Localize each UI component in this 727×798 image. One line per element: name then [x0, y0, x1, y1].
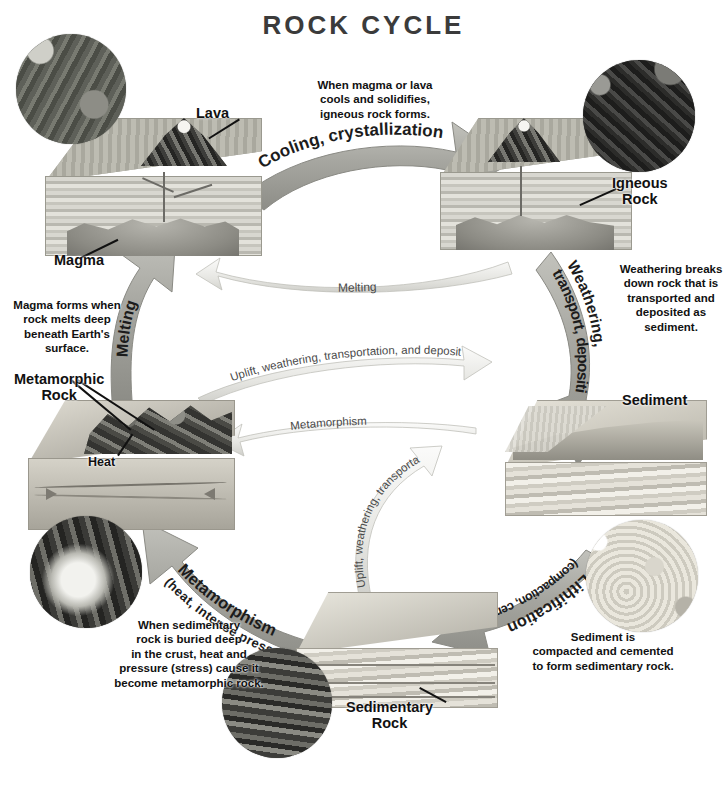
arrow-label-metamorphism-minor: Metamorphism — [290, 415, 367, 432]
label-metamorphic-line2: Rock — [14, 388, 104, 404]
note-lithification-line3: to form sedimentary rock. — [508, 659, 698, 673]
note-lithification-line2: compacted and cemented — [508, 644, 698, 658]
label-metamorphic-line1: Metamorphic — [14, 372, 104, 388]
note-weathering-line5: sediment. — [618, 320, 724, 334]
label-heat: Heat — [88, 455, 115, 469]
note-metamorphism-line4: pressure (stress) cause it — [96, 661, 282, 675]
label-igneous-rock: Igneous Rock — [612, 176, 668, 208]
svg-text:Melting: Melting — [338, 280, 377, 295]
rock-cycle-diagram: ROCK CYCLE — [0, 0, 727, 798]
label-sedimentary-line2: Rock — [346, 716, 433, 732]
label-sediment: Sediment — [622, 392, 687, 408]
label-metamorphic-rock: Metamorphic Rock — [14, 372, 104, 403]
label-sedimentary-rock: Sedimentary Rock — [346, 700, 433, 732]
forest-outcrop-texture — [16, 34, 126, 144]
arrow-melting-minor: Melting — [196, 258, 512, 295]
lava-flow-texture — [30, 516, 142, 628]
label-igneous-line1: Igneous — [612, 176, 668, 192]
note-cooling-line3: igneous rock forms. — [295, 107, 455, 121]
note-cooling-line2: cools and solidifies, — [295, 92, 455, 106]
note-melting-line3: beneath Earth's — [12, 327, 122, 341]
note-melting-line1: Magma forms when — [12, 298, 122, 312]
dark-igneous-rock-texture — [583, 60, 695, 172]
svg-text:Metamorphism: Metamorphism — [290, 415, 367, 432]
note-weathering-line1: Weathering breaks — [618, 262, 724, 276]
label-lava: Lava — [196, 105, 229, 121]
note-weathering: Weathering breaks down rock that is tran… — [618, 262, 724, 334]
note-weathering-line2: down rock that is — [618, 276, 724, 290]
photo-dark-igneous-rock — [583, 60, 695, 172]
note-metamorphism-line1: When sedimentary — [96, 618, 282, 632]
note-melting-line4: surface. — [12, 341, 122, 355]
photo-sand-grains — [586, 520, 698, 632]
photo-forest-outcrop — [16, 34, 126, 144]
note-lithification: Sediment is compacted and cemented to fo… — [508, 630, 698, 673]
label-sedimentary-line1: Sedimentary — [346, 700, 433, 716]
note-metamorphism: When sedimentary rock is buried deep in … — [96, 618, 282, 690]
note-melting-line2: rock melts deep — [12, 312, 122, 326]
note-weathering-line4: deposited as — [618, 305, 724, 319]
igneous-dike — [520, 166, 522, 216]
note-metamorphism-line2: rock is buried deep — [96, 632, 282, 646]
note-metamorphism-line3: in the crust, heat and — [96, 647, 282, 661]
sedimentary-top-face — [296, 592, 498, 654]
note-melting: Magma forms when rock melts deep beneath… — [12, 298, 122, 356]
note-cooling: When magma or lava cools and solidifies,… — [295, 78, 455, 121]
sediment-block — [505, 400, 705, 520]
note-lithification-line1: Sediment is — [508, 630, 698, 644]
sediment-front-face — [505, 462, 707, 516]
metamorphic-rock-block — [28, 400, 233, 535]
note-cooling-line1: When magma or lava — [295, 78, 455, 92]
photo-lava-flow — [30, 516, 142, 628]
label-magma: Magma — [54, 252, 104, 268]
heat-arrow-left-icon — [46, 488, 57, 500]
sand-grains-texture — [586, 520, 698, 632]
note-metamorphism-line5: become metamorphic rock. — [96, 676, 282, 690]
heat-arrow-right-icon — [204, 488, 215, 500]
note-weathering-line3: transported and — [618, 291, 724, 305]
arrow-label-melting-minor: Melting — [338, 280, 377, 295]
label-igneous-line2: Rock — [612, 192, 668, 208]
magma-dike — [163, 172, 165, 222]
